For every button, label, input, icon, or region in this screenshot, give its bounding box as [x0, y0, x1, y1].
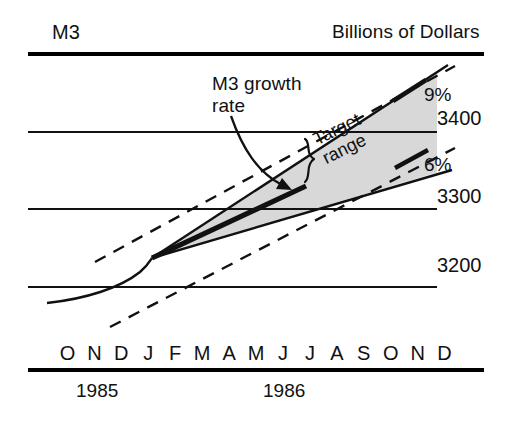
rate-label-upper: 9%: [424, 85, 451, 104]
y-axis-label-3400: 3400: [437, 108, 482, 128]
month-tick: M: [243, 342, 270, 365]
y-axis-label-3200: 3200: [437, 255, 482, 275]
month-tick: D: [108, 342, 135, 365]
month-tick: D: [431, 342, 458, 365]
month-axis: O N D J F M A M J J A S O N D: [54, 342, 458, 368]
month-tick: J: [135, 342, 162, 365]
month-tick: A: [216, 342, 243, 365]
month-tick: A: [323, 342, 350, 365]
month-tick: N: [81, 342, 108, 365]
m3-money-supply-chart: M3 Billions of Dollars M3 growth rate Ta…: [0, 0, 512, 424]
month-tick: J: [296, 342, 323, 365]
month-tick: N: [404, 342, 431, 365]
y-axis-label-3300: 3300: [437, 186, 482, 206]
m3-actual-line: [47, 258, 152, 303]
year-label-1986: 1986: [263, 381, 305, 400]
m3-growth-rate-line: [152, 186, 306, 258]
year-label-1985: 1985: [76, 381, 118, 400]
rate-label-lower: 6%: [424, 155, 451, 174]
month-tick: M: [189, 342, 216, 365]
page-title: M3: [52, 22, 80, 42]
month-tick: J: [270, 342, 297, 365]
month-tick: O: [377, 342, 404, 365]
month-tick: F: [162, 342, 189, 365]
units-label: Billions of Dollars: [332, 22, 480, 41]
annotation-m3-growth-rate: M3 growth rate: [212, 73, 302, 118]
month-tick: O: [54, 342, 81, 365]
month-tick: S: [350, 342, 377, 365]
